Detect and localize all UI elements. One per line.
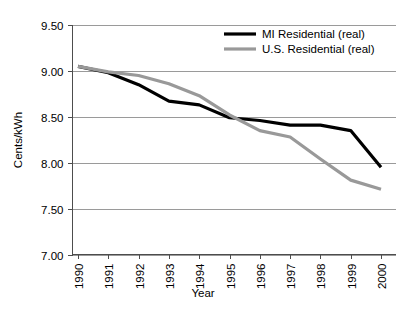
legend-label-mi-residential: MI Residential (real) <box>262 28 365 40</box>
x-tick-label-1997: 1997 <box>285 264 297 290</box>
x-tick-label-1999: 1999 <box>346 264 358 290</box>
y-tick-label: 7.00 <box>41 250 63 262</box>
y-tick-label: 9.00 <box>41 66 63 78</box>
y-tick-label: 9.50 <box>41 20 63 32</box>
x-tick-label-1996: 1996 <box>255 264 267 290</box>
legend-label-us-residential: U.S. Residential (real) <box>262 43 375 55</box>
y-tick-label: 8.50 <box>41 112 63 124</box>
y-axis-title: Cents/kWh <box>12 112 24 168</box>
x-tick-label-1994: 1994 <box>194 263 206 289</box>
x-tick-label-1993: 1993 <box>164 264 176 290</box>
chart-canvas: 9.509.008.508.007.507.00 199019911992199… <box>0 0 411 317</box>
line-chart: 9.509.008.508.007.507.00 199019911992199… <box>0 0 411 317</box>
x-tick-label-1990: 1990 <box>73 264 85 290</box>
x-tick-label-1991: 1991 <box>103 264 115 290</box>
x-tick-label-2000: 2000 <box>376 264 388 290</box>
y-tick-label: 8.00 <box>41 158 63 170</box>
x-axis-title: Year <box>191 287 214 299</box>
y-tick-label: 7.50 <box>41 204 63 216</box>
x-tick-label-1995: 1995 <box>225 264 237 290</box>
x-tick-label-1992: 1992 <box>134 264 146 290</box>
x-tick-label-1998: 1998 <box>315 264 327 290</box>
